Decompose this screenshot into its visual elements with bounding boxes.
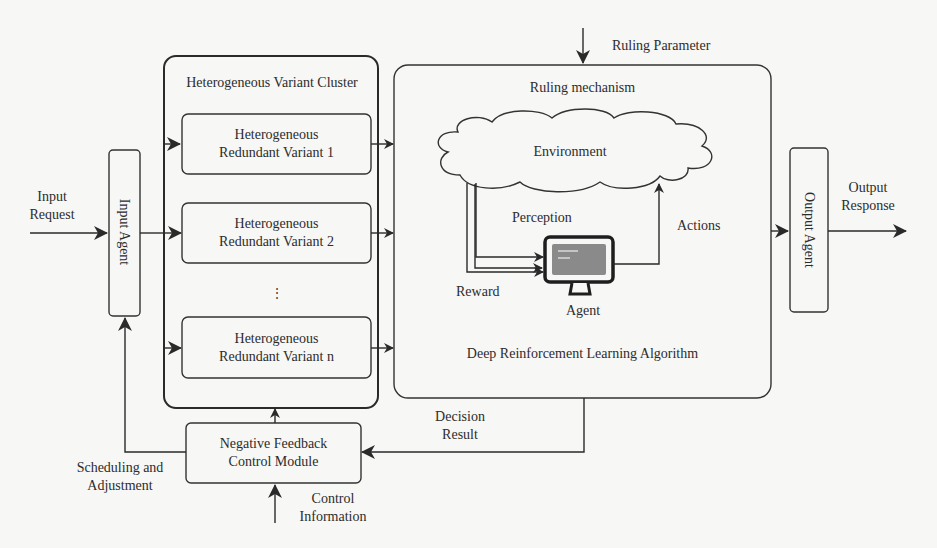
variant-2-line1: Heterogeneous xyxy=(182,215,371,233)
variant-ellipsis: ⋮ xyxy=(182,284,371,302)
algorithm-label: Deep Reinforcement Learning Algorithm xyxy=(394,345,771,363)
reward-label: Reward xyxy=(456,283,500,301)
output-agent-label: Output Agent xyxy=(801,190,817,270)
input-agent-label: Input Agent xyxy=(116,192,132,272)
output-response-line2: Response xyxy=(838,197,898,215)
variant-n-label: Heterogeneous Redundant Variant n xyxy=(182,330,371,366)
decision-result-line1: Decision xyxy=(425,408,495,426)
decision-result-label: Decision Result xyxy=(425,408,495,444)
output-response-label: Output Response xyxy=(838,179,898,215)
feedback-module-line1: Negative Feedback xyxy=(186,435,361,453)
environment-label: Environment xyxy=(500,143,640,161)
perception-label: Perception xyxy=(512,209,572,227)
feedback-module-label: Negative Feedback Control Module xyxy=(186,435,361,471)
control-info-line2: Information xyxy=(288,508,378,526)
diagram-canvas: Input Request Input Agent Heterogeneous … xyxy=(0,0,937,548)
scheduling-adjustment-label: Scheduling and Adjustment xyxy=(60,459,180,495)
variant-n-line2: Redundant Variant n xyxy=(182,348,371,366)
output-response-line1: Output xyxy=(838,179,898,197)
agent-label: Agent xyxy=(553,302,613,320)
input-request-line1: Input xyxy=(22,188,82,206)
variant-1-line1: Heterogeneous xyxy=(182,126,371,144)
scheduling-line2: Adjustment xyxy=(60,477,180,495)
control-information-label: Control Information xyxy=(288,490,378,526)
variant-1-label: Heterogeneous Redundant Variant 1 xyxy=(182,126,371,162)
feedback-module-line2: Control Module xyxy=(186,453,361,471)
input-request-label: Input Request xyxy=(22,188,82,224)
ruling-parameter-label: Ruling Parameter xyxy=(612,37,710,55)
variant-1-line2: Redundant Variant 1 xyxy=(182,144,371,162)
variant-2-label: Heterogeneous Redundant Variant 2 xyxy=(182,215,371,251)
ruling-mechanism-title: Ruling mechanism xyxy=(394,79,771,97)
decision-result-line2: Result xyxy=(425,426,495,444)
agent-monitor-icon xyxy=(545,237,613,294)
cluster-title: Heterogeneous Variant Cluster xyxy=(166,74,378,92)
actions-label: Actions xyxy=(677,217,721,235)
scheduling-line1: Scheduling and xyxy=(60,459,180,477)
input-request-line2: Request xyxy=(22,206,82,224)
variant-n-line1: Heterogeneous xyxy=(182,330,371,348)
variant-2-line2: Redundant Variant 2 xyxy=(182,233,371,251)
control-info-line1: Control xyxy=(288,490,378,508)
